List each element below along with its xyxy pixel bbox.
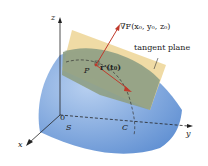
curve-label: C xyxy=(122,124,128,132)
point-p-label: P xyxy=(84,67,89,75)
origin-label: 0 xyxy=(60,114,65,122)
gradient-label: ∇F(x₀, y₀, z₀) xyxy=(120,23,170,31)
tangent-plane-label: tangent plane xyxy=(134,44,190,52)
x-axis-label: x xyxy=(18,141,23,149)
z-axis-arrow xyxy=(58,17,62,23)
y-axis-arrow xyxy=(187,124,193,128)
surface-label: S xyxy=(66,124,71,132)
y-axis-label: y xyxy=(186,130,191,138)
diagram-canvas xyxy=(0,0,208,166)
z-axis-label: z xyxy=(51,14,55,22)
tangent-vector-label: r′(t₀) xyxy=(100,63,121,71)
point-p-dot xyxy=(95,64,98,67)
